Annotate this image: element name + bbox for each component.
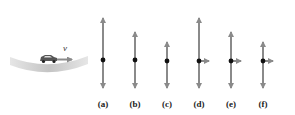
velocity-label: v⃗ — [63, 43, 74, 53]
option-label: (d) — [194, 99, 205, 109]
object-dot — [133, 58, 138, 63]
option-d-diagram — [197, 18, 209, 88]
car-icon — [40, 55, 57, 63]
object-dot — [229, 59, 234, 64]
option-e-diagram — [229, 32, 241, 88]
option-label: (b) — [130, 99, 141, 109]
option-label: (a) — [98, 99, 109, 109]
option-b-diagram — [133, 32, 138, 88]
force-diagram-canvas — [0, 0, 295, 115]
object-dot — [101, 58, 106, 63]
object-dot — [165, 59, 170, 64]
option-a-diagram — [101, 18, 106, 88]
option-c-diagram — [165, 42, 170, 88]
option-label: (c) — [162, 99, 172, 109]
option-f-diagram — [261, 42, 273, 88]
object-dot — [261, 59, 266, 64]
option-label: (e) — [226, 99, 236, 109]
object-dot — [197, 59, 202, 64]
option-label: (f) — [259, 99, 268, 109]
